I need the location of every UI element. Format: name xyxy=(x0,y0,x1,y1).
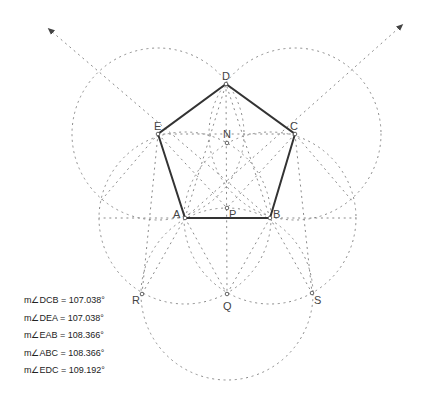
label-A: A xyxy=(173,208,181,220)
construction-circles xyxy=(72,48,381,380)
segment-A-Q[interactable] xyxy=(185,218,227,294)
point-labels: A B C D E N P Q R S xyxy=(132,70,321,312)
label-P: P xyxy=(229,208,236,220)
point-R[interactable] xyxy=(140,292,144,296)
label-D: D xyxy=(222,70,230,82)
label-N: N xyxy=(223,128,231,140)
measure-angle-DCB[interactable]: m∠DCB = 107.038° xyxy=(24,292,105,310)
label-E: E xyxy=(154,120,161,132)
segment-E-R[interactable] xyxy=(142,134,158,294)
points xyxy=(140,82,314,296)
measure-angle-EAB[interactable]: m∠EAB = 108.366° xyxy=(24,327,105,345)
point-E[interactable] xyxy=(156,132,160,136)
point-C[interactable] xyxy=(293,132,297,136)
line-C-outward[interactable] xyxy=(295,134,354,203)
label-Q: Q xyxy=(223,300,232,312)
segment-B-Q[interactable] xyxy=(227,218,270,294)
segment-E-P[interactable] xyxy=(158,134,227,208)
label-B: B xyxy=(273,208,280,220)
line-E-outward[interactable] xyxy=(99,134,158,203)
measure-angle-DEA[interactable]: m∠DEA = 107.038° xyxy=(24,310,105,328)
axis-D-Q[interactable] xyxy=(226,84,227,294)
segment-A-R[interactable] xyxy=(142,218,185,294)
measure-angle-ABC[interactable]: m∠ABC = 108.366° xyxy=(24,345,105,363)
label-C: C xyxy=(290,120,298,132)
point-N[interactable] xyxy=(225,141,229,145)
point-A[interactable] xyxy=(183,216,187,220)
point-B[interactable] xyxy=(268,216,272,220)
segment-B-S[interactable] xyxy=(270,218,312,293)
angle-measurements: m∠DCB = 107.038° m∠DEA = 107.038° m∠EAB … xyxy=(24,292,105,380)
label-R: R xyxy=(132,294,140,306)
point-Q[interactable] xyxy=(225,292,229,296)
label-S: S xyxy=(314,294,321,306)
measure-angle-EDC[interactable]: m∠EDC = 109.192° xyxy=(24,362,105,380)
segment-B-D[interactable] xyxy=(226,84,270,218)
point-D[interactable] xyxy=(224,82,228,86)
